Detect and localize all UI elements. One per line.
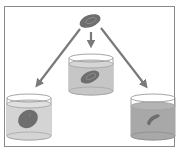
beaker-left [7, 94, 51, 140]
tonicity-diagram [0, 0, 179, 153]
